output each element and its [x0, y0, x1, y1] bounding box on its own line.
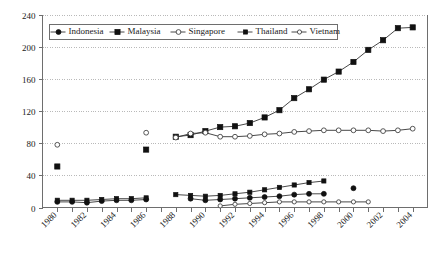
y-tick-label-160: 160: [22, 75, 36, 85]
legend-label-vietnam: Vietnam: [310, 26, 340, 36]
data-series: [55, 25, 416, 208]
data-point-malaysia-2003: [395, 26, 400, 31]
data-point-singapore-1997: [307, 129, 312, 134]
legend-label-malaysia: Malaysia: [128, 26, 161, 36]
data-point-malaysia-1998: [321, 77, 326, 82]
data-point-thailand-1994: [263, 188, 267, 192]
data-point-singapore-1990: [203, 130, 208, 135]
data-point-indonesia-1998: [321, 191, 326, 196]
data-point-malaysia-1999: [336, 69, 341, 74]
x-axis-tick-labels: 1980198219841986198819901992199419961998…: [39, 209, 415, 229]
data-point-malaysia-2000: [351, 59, 356, 64]
x-tick-label-1986: 1986: [128, 209, 148, 229]
data-point-vietnam-1991: [218, 204, 222, 208]
data-point-malaysia-1980: [55, 164, 60, 169]
x-tick-label-1980: 1980: [39, 209, 59, 229]
data-point-vietnam-1993: [248, 201, 252, 205]
data-point-singapore-2000: [351, 128, 356, 133]
legend-marker-malaysia: [115, 29, 120, 34]
data-point-thailand-1990: [203, 194, 207, 198]
data-point-malaysia-1992: [232, 124, 237, 129]
data-point-singapore-1991: [218, 134, 223, 139]
data-point-thailand-1988: [174, 193, 178, 197]
data-point-vietnam-2001: [366, 200, 370, 204]
series-vietnam: [218, 200, 370, 208]
data-point-malaysia-2004: [410, 25, 415, 30]
data-point-malaysia-1995: [277, 108, 282, 113]
data-point-malaysia-2001: [366, 47, 371, 52]
chart-container: 04080120160200240 1980198219841986198819…: [0, 0, 443, 257]
y-tick-label-120: 120: [22, 107, 36, 117]
data-point-vietnam-1992: [233, 202, 237, 206]
data-point-singapore-2002: [381, 129, 386, 134]
data-point-thailand-1993: [248, 190, 252, 194]
data-point-malaysia-2002: [380, 38, 385, 43]
data-point-vietnam-2000: [351, 200, 355, 204]
data-point-singapore-1980: [55, 142, 60, 147]
data-point-singapore-2003: [395, 128, 400, 133]
data-point-thailand-1986: [144, 196, 148, 200]
x-tick-label-1984: 1984: [98, 209, 118, 229]
x-tick-label-1994: 1994: [246, 209, 266, 229]
legend-label-indonesia: Indonesia: [69, 26, 104, 36]
data-point-singapore-1996: [292, 130, 297, 135]
data-point-thailand-1991: [218, 193, 222, 197]
x-tick-label-1998: 1998: [305, 209, 325, 229]
data-point-singapore-2001: [366, 128, 371, 133]
data-point-thailand-1984: [114, 197, 118, 201]
data-point-malaysia-1996: [292, 96, 297, 101]
data-point-thailand-1982: [85, 198, 89, 202]
data-point-singapore-1993: [247, 134, 252, 139]
data-point-vietnam-1996: [292, 200, 296, 204]
data-point-vietnam-1999: [337, 200, 341, 204]
series-malaysia: [55, 25, 416, 169]
legend-label-thailand: Thailand: [256, 26, 288, 36]
y-tick-label-240: 240: [22, 11, 36, 21]
data-point-singapore-1994: [262, 132, 267, 137]
data-point-indonesia-1993: [247, 195, 252, 200]
data-point-singapore-1995: [277, 131, 282, 136]
legend-label-singapore: Singapore: [189, 26, 226, 36]
series-line-malaysia: [176, 27, 413, 136]
y-tick-label-0: 0: [31, 204, 36, 214]
x-tick-label-1996: 1996: [276, 209, 296, 229]
x-tick-label-1992: 1992: [217, 210, 237, 230]
data-point-malaysia-1991: [218, 124, 223, 129]
series-singapore: [55, 126, 415, 147]
data-point-thailand-1985: [129, 197, 133, 201]
data-point-indonesia-1997: [307, 191, 312, 196]
data-point-singapore-1998: [321, 128, 326, 133]
y-axis-tick-labels: 04080120160200240: [22, 11, 36, 214]
x-tick-label-2002: 2002: [365, 210, 385, 230]
data-point-vietnam-1997: [307, 200, 311, 204]
line-chart: 04080120160200240 1980198219841986198819…: [0, 0, 443, 257]
data-point-singapore-1988: [173, 135, 178, 140]
series-line-indonesia: [191, 194, 324, 201]
legend-marker-thailand: [243, 30, 247, 34]
data-point-thailand-1980: [55, 198, 59, 202]
data-point-indonesia-2000: [351, 186, 356, 191]
chart-legend: IndonesiaMalaysiaSingaporeThailandVietna…: [50, 25, 340, 40]
x-tick-label-1982: 1982: [69, 210, 89, 230]
legend-marker-singapore: [176, 30, 181, 35]
x-tick-label-1988: 1988: [157, 209, 177, 229]
data-point-vietnam-1995: [277, 200, 281, 204]
data-point-indonesia-1994: [262, 195, 267, 200]
data-point-thailand-1995: [277, 185, 281, 189]
data-point-singapore-1986: [144, 130, 149, 135]
data-point-singapore-1992: [233, 134, 238, 139]
y-tick-label-80: 80: [27, 139, 37, 149]
data-point-indonesia-1996: [292, 192, 297, 197]
data-point-malaysia-1986: [144, 147, 149, 152]
y-tick-label-40: 40: [27, 171, 37, 181]
axes: [39, 15, 428, 212]
data-point-thailand-1989: [188, 193, 192, 197]
data-point-indonesia-1995: [277, 194, 282, 199]
data-point-singapore-1999: [336, 128, 341, 133]
data-point-malaysia-1997: [306, 87, 311, 92]
x-tick-label-2000: 2000: [335, 209, 355, 229]
data-point-thailand-1998: [322, 179, 326, 183]
data-point-thailand-1992: [233, 192, 237, 196]
data-point-thailand-1996: [292, 183, 296, 187]
x-tick-label-1990: 1990: [187, 209, 207, 229]
